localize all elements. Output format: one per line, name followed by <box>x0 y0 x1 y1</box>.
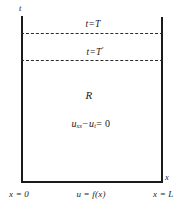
bottom-boundary-line <box>21 181 163 183</box>
isochrone-Tprime-prime: ′ <box>102 46 104 55</box>
left-boundary-line <box>21 16 23 183</box>
isochrone-line-T <box>21 33 163 34</box>
isochrone-line-T-prime <box>21 60 163 61</box>
isochrone-T-value: T <box>95 19 100 29</box>
right-boundary-line <box>161 17 163 183</box>
region-label: R <box>86 90 93 101</box>
right-boundary-label: x = L <box>153 190 174 199</box>
pde-minus: − <box>82 118 89 129</box>
heat-equation-region-figure: t x t=T t=T′ R uxx−ut= 0 x = 0 u = f(x) … <box>0 0 183 212</box>
isochrone-label-T-prime: t=T′ <box>87 47 104 57</box>
x-axis-label: x <box>165 173 169 182</box>
initial-condition-label: u = f(x) <box>76 190 105 199</box>
t-axis-label: t <box>19 4 22 13</box>
isochrone-label-T: t=T <box>86 20 101 30</box>
pde-subscript-xx: xx <box>77 122 83 129</box>
pde-equation: uxx−ut= 0 <box>71 119 110 130</box>
left-boundary-label: x = 0 <box>9 190 29 199</box>
pde-equals-zero: = 0 <box>96 118 111 129</box>
